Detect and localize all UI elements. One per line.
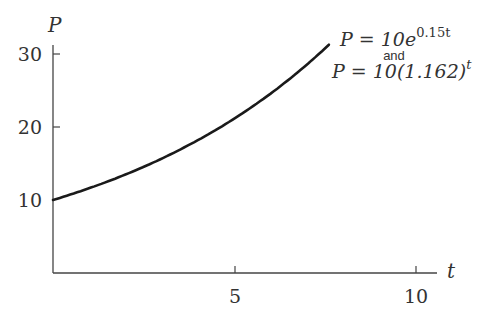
y-tick-label-10: 10 (18, 189, 42, 211)
eq1-exponent: 0.15t (416, 25, 451, 40)
x-axis-label: t (447, 259, 456, 283)
chart-canvas: 30 20 10 5 10 P t P = 10e0.15t and P = 1… (0, 0, 477, 323)
y-tick-label-30: 30 (18, 43, 42, 65)
eq2-exponent: t (466, 57, 472, 72)
y-axis-label: P (47, 13, 62, 37)
equation-1: P = 10e0.15t (339, 25, 451, 50)
x-tick-label-10: 10 (404, 285, 428, 307)
eq1-main: P = 10e (339, 28, 416, 50)
eq2-main: P = 10(1.162) (331, 60, 466, 82)
equation-2: P = 10(1.162)t (331, 57, 472, 82)
exponential-curve (53, 45, 329, 200)
y-tick-label-20: 20 (18, 116, 42, 138)
x-tick-label-5: 5 (229, 285, 241, 307)
